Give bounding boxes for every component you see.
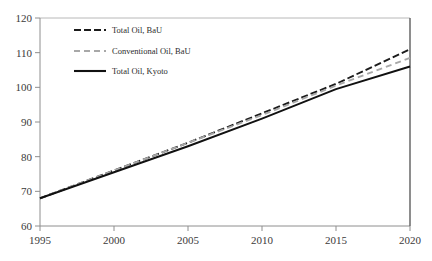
x-axis-ticks: 199520002005201020152020 [29,226,422,246]
chart-legend: Total Oil, BaUConventional Oil, BaUTotal… [74,25,191,76]
legend-label: Total Oil, BaU [112,25,162,35]
y-tick-label: 80 [21,151,33,163]
x-tick-label: 2000 [103,234,126,246]
x-tick-label: 2005 [177,234,200,246]
y-tick-label: 70 [21,185,33,197]
plot-frame [40,18,410,226]
x-tick-label: 2020 [399,234,422,246]
y-axis-ticks: 60708090100110120 [16,12,41,232]
series-line [40,58,410,198]
y-tick-label: 110 [16,47,33,59]
y-tick-label: 60 [21,220,33,232]
series-line [40,67,410,199]
y-tick-label: 120 [16,12,33,24]
legend-label: Total Oil, Kyoto [112,66,168,76]
x-tick-label: 1995 [29,234,52,246]
line-chart: 60708090100110120 1995200020052010201520… [0,0,432,261]
x-tick-label: 2010 [251,234,274,246]
y-tick-label: 90 [21,116,33,128]
legend-label: Conventional Oil, BaU [112,46,191,56]
chart-canvas: 60708090100110120 1995200020052010201520… [0,0,432,261]
y-tick-label: 100 [16,81,33,93]
x-tick-label: 2015 [325,234,348,246]
